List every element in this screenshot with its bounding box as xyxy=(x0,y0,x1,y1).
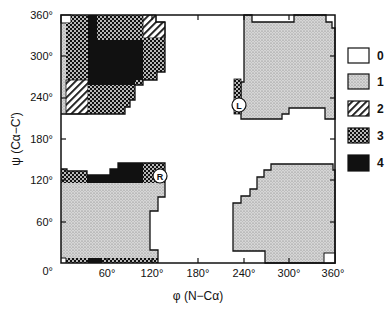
legend: 0 1 2 3 4 xyxy=(348,48,384,171)
beta-region xyxy=(61,15,165,114)
alpha-r-region xyxy=(61,163,165,263)
legend-label-1: 1 xyxy=(377,75,384,89)
x-tick-60: 60° xyxy=(99,267,116,279)
legend-label-2: 2 xyxy=(377,102,384,116)
x-tick-300: 300° xyxy=(278,267,301,279)
x-tick-180: 180° xyxy=(187,267,210,279)
x-tick-360: 360° xyxy=(322,267,345,279)
svg-text:R: R xyxy=(157,172,164,182)
y-tick-240: 240° xyxy=(30,91,53,103)
legend-swatch-4 xyxy=(348,155,369,171)
y-tick-180: 180° xyxy=(30,133,53,145)
y-axis-title: ψ (Cα−C′) xyxy=(9,112,23,165)
ramachandran-plot: 360° 300° 240° 180° 120° 60° 0° 60° 120°… xyxy=(0,0,392,314)
x-axis-title: φ (N−Cα) xyxy=(173,289,223,303)
legend-label-4: 4 xyxy=(377,156,384,170)
y-tick-labels: 360° 300° 240° 180° 120° 60° 0° xyxy=(30,9,53,277)
x-tick-240: 240° xyxy=(233,267,256,279)
legend-swatch-3 xyxy=(348,128,369,143)
y-tick-120: 120° xyxy=(30,174,53,186)
marker-l: L xyxy=(232,98,246,112)
x-tick-labels: 60° 120° 180° 240° 300° 360° xyxy=(99,267,345,279)
legend-label-0: 0 xyxy=(377,49,384,63)
legend-swatch-2 xyxy=(348,101,369,116)
y-tick-360: 360° xyxy=(30,9,53,21)
legend-label-3: 3 xyxy=(377,129,384,143)
legend-swatch-1 xyxy=(348,74,369,89)
svg-text:L: L xyxy=(236,101,242,111)
marker-r: R xyxy=(153,169,167,183)
y-tick-60: 60° xyxy=(36,216,53,228)
y-tick-300: 300° xyxy=(30,50,53,62)
lower-right-region xyxy=(233,164,335,263)
y-tick-0: 0° xyxy=(42,265,53,277)
legend-swatch-0 xyxy=(348,48,369,63)
x-tick-120: 120° xyxy=(141,267,164,279)
alpha-l-region xyxy=(234,15,335,119)
